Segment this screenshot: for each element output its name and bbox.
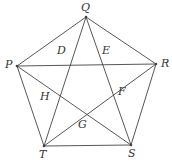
intersection-label-G: G — [78, 119, 87, 130]
vertex-dot-T — [43, 145, 46, 148]
intersection-label-E: E — [102, 45, 110, 56]
diagram-lines — [0, 0, 172, 165]
intersection-label-F: F — [118, 86, 126, 97]
diagonal-PS — [17, 66, 131, 145]
edge-RS — [131, 64, 156, 145]
diagonal-RT — [44, 64, 156, 146]
vertex-dot-P — [16, 65, 19, 68]
vertex-label-S: S — [128, 148, 136, 159]
pentagon-diagram: QRSTPDEFGH — [0, 0, 172, 165]
edge-ST — [44, 145, 131, 146]
vertex-label-P: P — [5, 59, 12, 70]
edge-TP — [17, 66, 44, 146]
diagonal-QS — [86, 17, 131, 145]
edge-QR — [86, 17, 156, 64]
diagonal-PR — [17, 64, 156, 66]
vertex-label-R: R — [161, 58, 169, 69]
vertex-dot-Q — [85, 16, 88, 19]
intersection-label-H: H — [40, 91, 50, 102]
edge-PQ — [17, 17, 86, 66]
vertex-dot-S — [130, 144, 133, 147]
intersection-label-D: D — [57, 45, 66, 56]
vertex-dot-R — [155, 63, 158, 66]
vertex-label-T: T — [39, 149, 46, 160]
vertex-label-Q: Q — [81, 2, 90, 13]
